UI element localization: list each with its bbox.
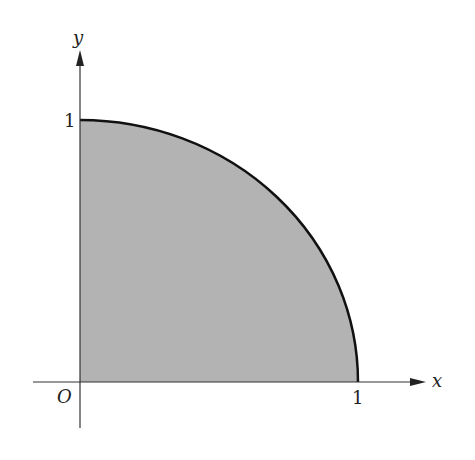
shaded-region (80, 120, 358, 382)
diagram-canvas: y x O 1 1 (0, 0, 475, 460)
y-axis-arrow-icon (76, 50, 84, 66)
y-tick-label: 1 (64, 110, 75, 131)
origin-label: O (57, 386, 72, 407)
x-tick-label: 1 (352, 387, 363, 408)
x-axis-arrow-icon (410, 378, 426, 386)
quarter-circle-diagram: y x O 1 1 (0, 0, 475, 460)
y-axis-label: y (72, 27, 84, 48)
x-axis-label: x (432, 370, 442, 391)
